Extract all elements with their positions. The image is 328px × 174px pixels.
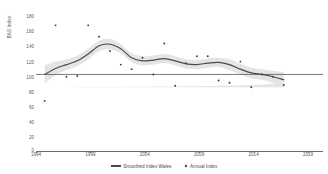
x-axis-tick-label: 2009 bbox=[186, 152, 212, 157]
chart-legend: Smoothed Index Wales Annual Index bbox=[0, 161, 328, 171]
x-axis-tick-label: 2004 bbox=[132, 152, 158, 157]
y-axis-tick-label: 40 bbox=[18, 120, 34, 125]
annual-index-point bbox=[261, 73, 263, 75]
y-axis-tick-label: 120 bbox=[18, 60, 34, 65]
y-axis-tick-label: 180 bbox=[18, 14, 34, 19]
annual-index-point bbox=[174, 85, 176, 87]
y-axis-tick-label: 80 bbox=[18, 90, 34, 95]
annual-index-point bbox=[65, 76, 67, 78]
annual-index-point bbox=[142, 57, 144, 59]
annual-index-point bbox=[109, 50, 111, 52]
y-axis-tick-label: 60 bbox=[18, 105, 34, 110]
plot-area bbox=[36, 14, 323, 150]
plot-svg bbox=[36, 14, 323, 150]
y-axis-tick-label: 100 bbox=[18, 75, 34, 80]
annual-index-point bbox=[55, 24, 57, 26]
annual-index-point bbox=[131, 68, 133, 70]
y-axis-tick-label: 140 bbox=[18, 44, 34, 49]
line-swatch-icon bbox=[111, 165, 121, 166]
point-swatch-icon bbox=[185, 165, 188, 168]
annual-index-point bbox=[98, 36, 100, 38]
annual-index-point bbox=[87, 24, 89, 26]
annual-index-point bbox=[44, 100, 46, 102]
annual-index-point bbox=[163, 43, 165, 45]
y-axis-tick-label: 20 bbox=[18, 135, 34, 140]
legend-item-smoothed-index: Smoothed Index Wales bbox=[111, 164, 172, 169]
x-axis-tick-label: 1999 bbox=[77, 152, 103, 157]
y-axis-title: BAS Index bbox=[7, 4, 17, 50]
annual-index-point bbox=[76, 75, 78, 77]
annual-index-point bbox=[250, 86, 252, 88]
annual-index-point bbox=[239, 61, 241, 63]
annual-index-point bbox=[229, 82, 231, 84]
x-axis-tick-label: 1994 bbox=[23, 152, 49, 157]
annual-index-point bbox=[120, 64, 122, 66]
x-axis-tick-label: 2019 bbox=[295, 152, 321, 157]
legend-item-annual-index: Annual Index bbox=[185, 164, 217, 169]
legend-label: Annual Index bbox=[190, 164, 217, 169]
y-axis-tick-label: 160 bbox=[18, 29, 34, 34]
confidence-band bbox=[37, 39, 284, 88]
legend-label: Smoothed Index Wales bbox=[123, 164, 171, 169]
annual-index-point bbox=[218, 80, 220, 82]
annual-index-point bbox=[152, 73, 154, 75]
annual-index-point bbox=[283, 84, 285, 86]
annual-index-point bbox=[207, 55, 209, 57]
annual-index-point bbox=[185, 62, 187, 64]
annual-index-point bbox=[272, 76, 274, 78]
x-axis-tick-label: 2014 bbox=[241, 152, 267, 157]
annual-index-point bbox=[196, 55, 198, 57]
bas-index-chart: BAS Index 180 160 140 120 100 80 60 40 2… bbox=[0, 0, 328, 174]
